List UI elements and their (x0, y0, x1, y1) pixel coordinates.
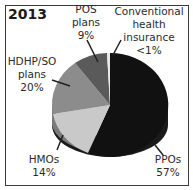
label-hmo-name: HMOs (24, 153, 64, 166)
label-conv-pct: <1% (108, 44, 190, 57)
label-ppo-name: PPOs (150, 153, 186, 166)
chart-title-year: 2013 (8, 6, 47, 22)
label-pos: POS plans 9% (64, 3, 108, 42)
label-pos-name-2: plans (64, 16, 108, 29)
label-pos-name: POS (64, 3, 108, 16)
label-hmo-pct: 14% (24, 166, 64, 179)
label-conventional: Conventional health insurance <1% (108, 5, 190, 57)
label-hdhp: HDHP/SO plans 20% (7, 55, 57, 94)
label-hdhp-name-2: plans (7, 68, 57, 81)
label-conv-name-2: health insurance (108, 18, 190, 44)
label-hdhp-name: HDHP/SO (7, 55, 57, 68)
label-hdhp-pct: 20% (7, 81, 57, 94)
label-ppo-pct: 57% (150, 166, 186, 179)
label-hmos: HMOs 14% (24, 153, 64, 179)
label-ppos: PPOs 57% (150, 153, 186, 179)
label-pos-pct: 9% (64, 29, 108, 42)
label-conv-name: Conventional (108, 5, 190, 18)
